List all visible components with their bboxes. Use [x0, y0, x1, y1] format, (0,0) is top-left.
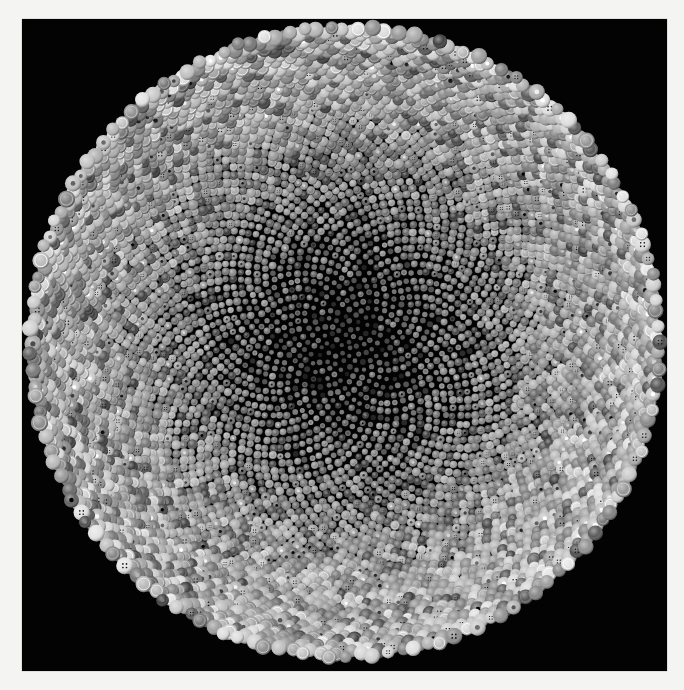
button-center-dot	[189, 298, 191, 300]
button-shading	[209, 295, 217, 303]
button-hole	[218, 214, 219, 215]
button-hole	[79, 513, 81, 515]
button	[418, 353, 423, 358]
button-hole	[661, 340, 663, 342]
button-center-dot	[514, 461, 516, 463]
button-shading	[495, 365, 504, 374]
button-hole	[324, 621, 325, 622]
button-shading	[263, 250, 271, 258]
button-hole	[454, 599, 455, 600]
button-hole	[570, 366, 571, 367]
button-hole	[488, 300, 489, 301]
button-center-dot	[297, 182, 299, 184]
button	[331, 302, 336, 307]
button-shading	[372, 472, 378, 478]
button-center-dot	[539, 222, 542, 225]
button-shading	[251, 298, 257, 304]
button-shading	[371, 398, 377, 404]
button-shading	[652, 320, 665, 333]
button-shading	[319, 368, 325, 374]
button-hole	[130, 257, 131, 258]
button-shading	[212, 357, 220, 365]
button-shading	[378, 325, 384, 331]
button	[357, 427, 363, 433]
button	[333, 270, 338, 275]
button-shading	[222, 439, 230, 447]
button-hole	[518, 212, 519, 213]
button-center-dot	[353, 131, 356, 134]
button-center-dot	[482, 255, 484, 257]
button-hole	[219, 182, 220, 183]
button-hole	[118, 383, 119, 384]
button	[380, 347, 385, 352]
button-hole	[323, 503, 324, 504]
button	[369, 347, 374, 352]
button-hole	[538, 216, 539, 217]
button-center-dot	[172, 79, 176, 83]
button-hole	[246, 492, 247, 493]
button	[314, 298, 318, 302]
button-hole	[447, 543, 448, 544]
button-hole	[241, 593, 242, 594]
button-shading	[256, 428, 263, 435]
button	[228, 338, 234, 344]
button-center-dot	[124, 204, 127, 207]
button	[356, 327, 360, 331]
button	[358, 392, 363, 397]
button-shading	[486, 309, 494, 317]
button-hole	[633, 336, 635, 338]
button-shading	[174, 377, 182, 385]
button-center-dot	[517, 243, 520, 246]
button-shading	[314, 443, 321, 450]
button-hole	[137, 350, 138, 351]
button-shading	[294, 270, 301, 277]
button-shading	[259, 235, 265, 241]
button-hole	[625, 349, 626, 350]
button-center-dot	[101, 430, 105, 434]
button-hole	[387, 602, 388, 603]
button-hole	[296, 599, 297, 600]
button-shading	[345, 236, 351, 242]
button-shading	[495, 63, 509, 77]
button-hole	[211, 527, 212, 528]
button-hole	[432, 196, 433, 197]
button-center-dot	[135, 573, 140, 578]
button-center-dot	[464, 472, 466, 474]
button-shading	[313, 426, 320, 433]
button-hole	[568, 547, 569, 548]
button-shading	[371, 277, 377, 283]
button-shading	[637, 428, 652, 443]
button-hole	[211, 407, 212, 408]
button-hole	[149, 203, 150, 204]
button-hole	[223, 562, 224, 563]
button-shading	[472, 275, 478, 281]
button-hole	[122, 563, 124, 565]
button-shading	[235, 203, 245, 213]
button-center-dot	[327, 203, 329, 205]
button-shading	[435, 297, 442, 304]
button-shading	[378, 194, 385, 201]
button-center-dot	[459, 399, 461, 401]
button-shading	[242, 299, 248, 305]
button-center-dot	[498, 259, 501, 262]
button-hole	[356, 502, 357, 503]
button-hole	[205, 266, 206, 267]
button-hole	[289, 234, 290, 235]
button-hole	[457, 433, 458, 434]
button-hole	[539, 410, 540, 411]
button	[422, 312, 427, 317]
button	[319, 265, 325, 271]
button-center-dot	[201, 545, 204, 548]
button-shading	[38, 239, 50, 251]
button-shading	[392, 358, 398, 364]
button-hole	[489, 411, 490, 412]
button	[371, 330, 376, 335]
button-hole	[578, 172, 579, 173]
button-shading	[313, 200, 320, 207]
button-shading	[254, 286, 261, 293]
button-hole	[169, 423, 170, 424]
button-shading	[312, 160, 320, 168]
button-hole	[461, 550, 462, 551]
button-hole	[536, 476, 537, 477]
button-shading	[230, 260, 237, 267]
